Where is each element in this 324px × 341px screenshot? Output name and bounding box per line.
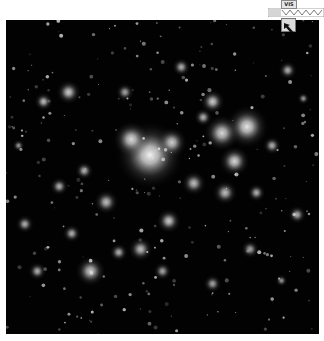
star-speck — [246, 250, 249, 253]
star-speck — [211, 294, 213, 296]
star-speck — [27, 70, 28, 71]
star-speck — [80, 189, 83, 192]
star-speck — [42, 116, 44, 118]
star-speck — [136, 191, 139, 194]
star-speck — [175, 329, 178, 332]
star-speck — [76, 316, 78, 318]
star-speck — [314, 152, 318, 156]
galaxy — [241, 240, 260, 259]
star-speck — [283, 165, 285, 167]
star-speck — [181, 76, 185, 80]
star-speck — [63, 226, 65, 228]
star-speck — [288, 80, 292, 84]
view-widget[interactable]: VIS — [268, 0, 324, 22]
star-speck — [306, 269, 310, 273]
star-speck — [257, 250, 261, 254]
star-speck — [113, 217, 114, 218]
star-speck — [257, 149, 258, 150]
star-speck — [185, 78, 188, 81]
star-speck — [290, 256, 291, 257]
star-speck — [92, 33, 95, 36]
star-speck — [108, 180, 109, 181]
star-speck — [253, 62, 255, 64]
star-speck — [156, 22, 158, 24]
star-speck — [306, 52, 309, 55]
galaxy — [50, 177, 69, 196]
star-speck — [276, 149, 278, 151]
star-speck — [130, 109, 131, 110]
star-speck — [54, 207, 55, 208]
star-speck — [132, 89, 134, 91]
star-speck — [148, 310, 151, 313]
star-speck — [208, 141, 211, 144]
star-speck — [157, 98, 159, 100]
star-speck — [142, 42, 146, 46]
star-speck — [261, 94, 265, 98]
galaxy — [219, 146, 250, 177]
star-speck — [308, 213, 311, 216]
star-speck — [154, 247, 156, 249]
star-speck — [139, 229, 143, 233]
star-speck — [292, 213, 296, 217]
star-speck — [95, 213, 98, 216]
star-speck — [154, 225, 157, 228]
star-speck — [72, 142, 75, 145]
star-speck — [142, 137, 145, 140]
star-speck — [171, 152, 172, 153]
star-speck — [129, 104, 132, 107]
star-speck — [190, 148, 192, 150]
star-speck — [75, 196, 78, 199]
star-speck — [171, 315, 172, 316]
galaxy — [203, 274, 222, 293]
galaxy — [247, 183, 266, 202]
star-speck — [265, 208, 266, 209]
galaxy — [297, 92, 310, 105]
star-speck — [63, 287, 66, 290]
star-speck — [178, 180, 181, 183]
star-speck — [253, 26, 256, 29]
star-speck — [83, 171, 84, 172]
star-speck — [266, 253, 269, 256]
galaxy — [156, 208, 181, 233]
star-speck — [226, 24, 227, 25]
star-speck — [42, 284, 46, 288]
star-speck — [158, 147, 161, 150]
star-speck — [22, 99, 25, 102]
star-speck — [215, 68, 218, 71]
star-speck — [58, 31, 59, 32]
galaxy — [278, 61, 297, 80]
star-speck — [136, 55, 139, 58]
galaxy-field — [6, 20, 319, 334]
star-speck — [228, 293, 230, 295]
star-speck — [28, 89, 29, 90]
star-speck — [193, 144, 196, 147]
star-speck — [268, 318, 270, 320]
star-speck — [289, 271, 290, 272]
star-speck — [78, 96, 80, 98]
star-speck — [29, 54, 31, 56]
star-speck — [260, 212, 263, 215]
star-speck — [128, 293, 131, 296]
star-speck — [114, 295, 117, 298]
star-speck — [34, 85, 38, 89]
star-speck — [211, 67, 214, 70]
star-speck — [284, 230, 286, 232]
star-speck — [200, 99, 202, 101]
star-speck — [144, 192, 145, 193]
star-speck — [199, 64, 200, 65]
star-speck — [47, 89, 49, 91]
star-speck — [270, 254, 273, 257]
star-speck — [46, 22, 49, 25]
star-speck — [51, 201, 54, 204]
star-speck — [235, 70, 236, 71]
star-speck — [217, 245, 221, 249]
star-speck — [294, 145, 298, 149]
star-speck — [202, 143, 206, 147]
galaxy — [15, 215, 34, 234]
pointer-arrow-icon[interactable] — [281, 18, 296, 32]
star-speck — [64, 322, 66, 324]
star-speck — [58, 269, 61, 272]
star-speck — [37, 161, 40, 164]
star-speck — [146, 290, 148, 292]
star-speck — [173, 107, 175, 109]
